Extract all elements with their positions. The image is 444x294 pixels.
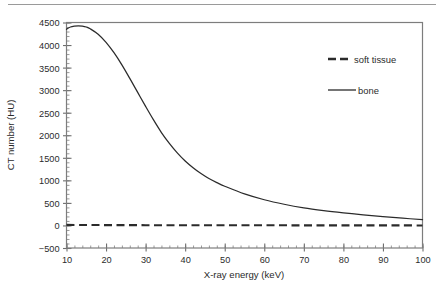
x-tick-label: 10: [62, 255, 72, 265]
legend-label-bone: bone: [358, 85, 379, 96]
x-tick-label: 80: [339, 255, 349, 265]
y-tick-label: −500: [39, 244, 60, 254]
y-axis-tick-labels: −500050010001500200025003000350040004500: [39, 18, 60, 254]
figure-container: −500050010001500200025003000350040004500…: [0, 0, 444, 294]
y-axis-title: CT number (HU): [5, 100, 16, 171]
top-divider-rule: [8, 4, 436, 5]
legend-label-soft-tissue: soft tissue: [354, 54, 396, 65]
x-tick-label: 40: [181, 255, 191, 265]
y-tick-label: 3000: [39, 86, 59, 96]
y-tick-label: 500: [44, 199, 59, 209]
x-tick-label: 20: [101, 255, 111, 265]
y-tick-label: 1000: [39, 176, 59, 186]
x-tick-label: 100: [415, 255, 430, 265]
x-tick-label: 30: [141, 255, 151, 265]
y-tick-label: 0: [54, 221, 59, 231]
chart-legend: soft tissue bone: [328, 54, 396, 96]
y-tick-label: 2500: [39, 109, 59, 119]
x-axis-title: X-ray energy (keV): [204, 269, 285, 280]
y-tick-label: 1500: [39, 154, 59, 164]
x-axis-tick-labels: 102030405060708090100: [62, 255, 431, 265]
y-tick-label: 4500: [39, 18, 59, 28]
x-tick-label: 60: [260, 255, 270, 265]
soft-tissue-series-line: [67, 225, 423, 226]
y-tick-label: 2000: [39, 131, 59, 141]
x-tick-label: 50: [220, 255, 230, 265]
chart-canvas: −500050010001500200025003000350040004500…: [0, 0, 444, 294]
x-tick-label: 90: [378, 255, 388, 265]
y-tick-label: 4000: [39, 41, 59, 51]
y-tick-label: 3500: [39, 64, 59, 74]
x-tick-label: 70: [299, 255, 309, 265]
